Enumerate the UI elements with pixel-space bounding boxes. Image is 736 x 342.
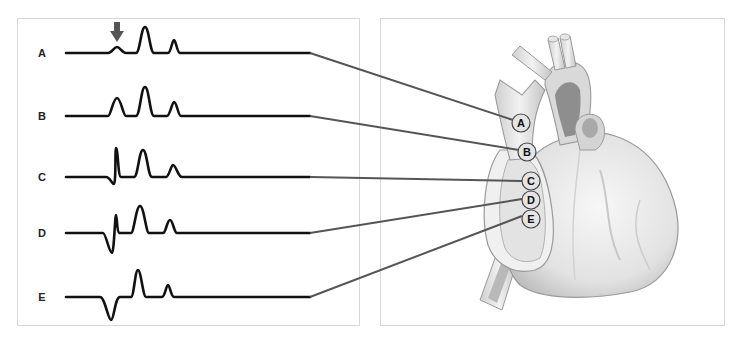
heart-illustration — [480, 34, 678, 310]
connector-b — [310, 116, 519, 150]
diagram-canvas: A B C D E — [0, 0, 736, 342]
trace-c — [66, 148, 310, 184]
site-marker-a: A — [512, 114, 530, 132]
site-marker-c: C — [522, 172, 540, 190]
down-arrow-icon — [110, 22, 124, 42]
site-marker-b: B — [518, 143, 536, 161]
connector-a — [310, 53, 513, 120]
trace-e — [66, 270, 310, 320]
svg-text:E: E — [527, 213, 534, 225]
svg-text:B: B — [523, 146, 531, 158]
trace-b — [66, 87, 310, 116]
trace-d — [66, 206, 310, 253]
site-marker-d: D — [522, 191, 540, 209]
svg-text:A: A — [517, 117, 525, 129]
trace-a — [66, 27, 310, 53]
svg-text:C: C — [527, 175, 535, 187]
site-marker-e: E — [522, 210, 540, 228]
svg-text:D: D — [527, 194, 535, 206]
